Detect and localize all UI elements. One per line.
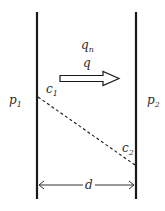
flux-n-label: qn [81,38,94,54]
pressure-right-label: p2 [147,93,160,109]
flux-arrow-icon [60,72,119,86]
membrane-diagram: qn q c1 c2 p1 p2 d [0,0,165,211]
flux-label: q [83,56,91,70]
concentration-gradient-line [38,97,135,165]
pressure-left-label: p1 [9,93,22,109]
thickness-label: d [85,178,93,192]
conc-left-label: c1 [46,82,58,98]
conc-right-label: c2 [122,141,134,157]
